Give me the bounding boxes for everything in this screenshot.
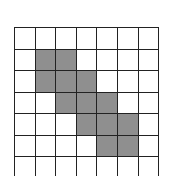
grid-cell-shaded [55, 92, 77, 115]
grid-cell [35, 135, 57, 158]
grid-cell-shaded [96, 92, 118, 115]
grid-cell [14, 70, 36, 93]
grid-cell [35, 92, 57, 115]
grid-cell [117, 49, 139, 72]
grid-cell-shaded [117, 113, 139, 136]
grid-cell [138, 49, 160, 72]
grid-cell [14, 92, 36, 115]
grid-cell [117, 156, 139, 176]
grid-cell [14, 27, 36, 50]
grid-cell [35, 156, 57, 176]
grid-cell [76, 49, 98, 72]
grid-cell-shaded [55, 70, 77, 93]
pixel-grid [14, 27, 159, 176]
grid-cell-shaded [76, 70, 98, 93]
grid-cell [76, 27, 98, 50]
grid-cell [55, 27, 77, 50]
grid-cell-shaded [96, 135, 118, 158]
grid-cell [138, 156, 160, 176]
grid-cell-shaded [35, 70, 57, 93]
grid-cell-shaded [55, 49, 77, 72]
grid-cell [138, 27, 160, 50]
grid-cell-shaded [76, 113, 98, 136]
grid-cell [55, 135, 77, 158]
grid-cell [117, 70, 139, 93]
grid-cell [55, 113, 77, 136]
grid-cell-shaded [35, 49, 57, 72]
grid-cell [14, 135, 36, 158]
grid-cell [35, 27, 57, 50]
grid-cell [14, 49, 36, 72]
grid-cell [138, 92, 160, 115]
grid-cell [14, 156, 36, 176]
grid-cell [96, 70, 118, 93]
grid-cell [117, 27, 139, 50]
grid-cell [96, 49, 118, 72]
grid-cell [35, 113, 57, 136]
grid-cell-shaded [76, 92, 98, 115]
grid-cell [76, 156, 98, 176]
grid-cell [138, 70, 160, 93]
grid-cell [138, 135, 160, 158]
grid-cell-shaded [96, 113, 118, 136]
grid-cell [55, 156, 77, 176]
grid-cell [96, 27, 118, 50]
grid-cell [96, 156, 118, 176]
grid-cell [14, 113, 36, 136]
grid-cell-shaded [117, 135, 139, 158]
grid-cell [138, 113, 160, 136]
grid-cell [76, 135, 98, 158]
grid-cell [117, 92, 139, 115]
